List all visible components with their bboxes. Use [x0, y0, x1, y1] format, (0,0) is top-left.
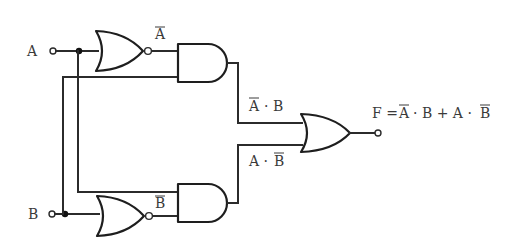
wire-a-to-and-bottom	[78, 51, 178, 192]
logic-circuit-diagram: A B A B A	[0, 0, 515, 247]
term2-b-text: B	[274, 153, 284, 169]
output-terminal-icon	[375, 130, 381, 136]
nor-gate-b: B	[97, 195, 178, 236]
formula-f-text: F =	[372, 105, 398, 121]
not-a-label: A	[154, 26, 166, 42]
formula-mid-text: · B + A ·	[413, 105, 472, 121]
and-gate-bottom-body-icon	[178, 184, 227, 222]
formula-a1-text: A	[398, 105, 410, 121]
or-gate-body-icon	[301, 114, 350, 152]
input-b-label: B	[28, 206, 38, 222]
term1-a-text: A	[248, 98, 260, 114]
wire-term1	[228, 63, 302, 123]
input-a-label: A	[26, 43, 38, 59]
and-gate-top-body-icon	[178, 44, 227, 82]
nor-gate-b-bubble-icon	[146, 213, 153, 220]
nor-gate-b-body-icon	[97, 196, 144, 236]
wire-b-to-and-top	[63, 77, 178, 214]
not-b-label: B	[155, 195, 165, 211]
term1-rest-text: · B	[264, 98, 283, 114]
term2-label: A · B	[248, 153, 284, 169]
or-gate-output	[301, 114, 381, 152]
term1-label: A · B	[248, 98, 283, 114]
and-gate-top	[178, 44, 302, 123]
nor-gate-a: A	[96, 26, 178, 71]
term2-a-text: A ·	[248, 153, 268, 169]
formula-b2-text: B	[480, 105, 490, 121]
nor-gate-a-body-icon	[96, 31, 143, 71]
nor-gate-a-bubble-icon	[145, 48, 152, 55]
output-formula: F = A · B + A · B	[372, 105, 490, 121]
